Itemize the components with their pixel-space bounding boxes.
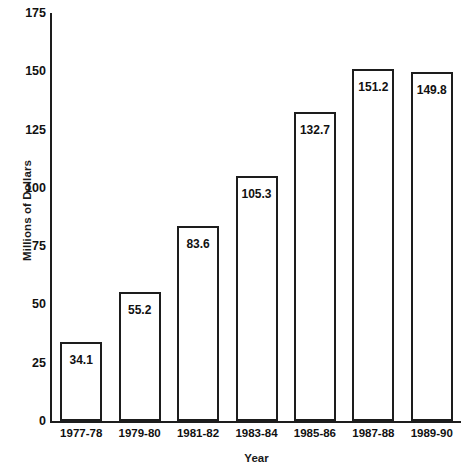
x-axis-tick-label: 1983-84 xyxy=(227,427,285,439)
bar-value-label: 151.2 xyxy=(354,80,392,94)
bar: 83.6 xyxy=(177,226,219,421)
x-axis-tick-labels: 1977-781979-801981-821983-841985-861987-… xyxy=(52,427,461,447)
bar-value-label: 55.2 xyxy=(121,303,159,317)
x-axis-line xyxy=(50,421,461,423)
bar: 34.1 xyxy=(60,342,102,422)
x-axis-tick-label: 1989-90 xyxy=(403,427,461,439)
x-axis-title: Year xyxy=(52,452,461,464)
bar-value-label: 149.8 xyxy=(413,83,451,97)
x-axis-tick-label: 1985-86 xyxy=(286,427,344,439)
plot-area: 34.155.283.6105.3132.7151.2149.8 xyxy=(52,13,461,421)
y-axis-tick-labels: 0255075100125150175 xyxy=(14,0,46,476)
bar-chart: Millions of Dollars 0255075100125150175 … xyxy=(0,0,469,476)
bar: 149.8 xyxy=(411,72,453,421)
y-axis-tick-label: 25 xyxy=(14,356,46,370)
y-axis-tick-label: 150 xyxy=(14,64,46,78)
bar-value-label: 34.1 xyxy=(62,353,100,367)
y-axis-tick-label: 50 xyxy=(14,297,46,311)
x-axis-tick-label: 1987-88 xyxy=(344,427,402,439)
bar: 151.2 xyxy=(352,69,394,422)
y-axis-tick-label: 125 xyxy=(14,123,46,137)
x-axis-tick-label: 1979-80 xyxy=(110,427,168,439)
x-axis-tick-label: 1981-82 xyxy=(169,427,227,439)
x-axis-tick-label: 1977-78 xyxy=(52,427,110,439)
y-axis-tick-label: 0 xyxy=(14,414,46,428)
bar-value-label: 105.3 xyxy=(238,187,276,201)
bar-value-label: 132.7 xyxy=(296,123,334,137)
y-axis-tick-label: 100 xyxy=(14,181,46,195)
bar: 55.2 xyxy=(119,292,161,421)
bar: 132.7 xyxy=(294,112,336,421)
y-axis-tick-label: 175 xyxy=(14,6,46,20)
y-axis-tick-label: 75 xyxy=(14,239,46,253)
bar: 105.3 xyxy=(236,176,278,421)
bar-value-label: 83.6 xyxy=(179,237,217,251)
